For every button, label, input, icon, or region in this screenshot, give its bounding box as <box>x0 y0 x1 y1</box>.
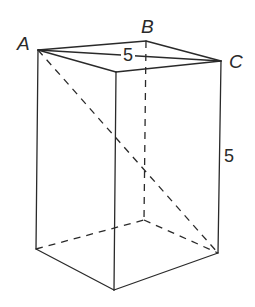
edge-A-vertical <box>36 50 38 249</box>
vertex-label-B: B <box>141 16 154 37</box>
height-length-label: 5 <box>224 146 234 166</box>
top-diagonal-length-label: 5 <box>123 45 133 65</box>
hidden-edge-bottom-back-right <box>144 220 218 253</box>
vertex-label-C: C <box>229 51 243 72</box>
hidden-space-diagonal <box>38 50 218 253</box>
edge-C-vertical <box>218 61 221 253</box>
prism-diagram: A B C 5 5 <box>0 0 255 307</box>
edge-bottom-front-left <box>36 249 114 290</box>
edge-D-vertical <box>114 72 116 290</box>
hidden-edge-bottom-back-left <box>36 220 144 249</box>
edge-AD <box>38 50 116 72</box>
vertex-label-A: A <box>16 33 30 54</box>
edge-bottom-front-right <box>114 253 218 290</box>
edge-BC <box>146 41 221 61</box>
hidden-edge-B-vertical <box>144 41 146 220</box>
